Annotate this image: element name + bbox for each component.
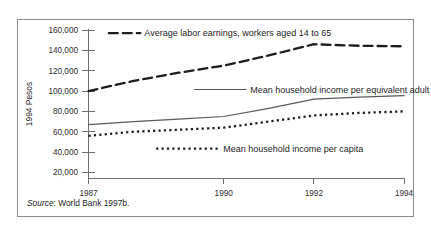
y-tick-label: 100,000 (48, 87, 78, 96)
source-label: Source (27, 198, 54, 208)
y-tick-label: 20,000 (53, 168, 78, 177)
y-axis-title: 1994 Pesos (24, 82, 34, 126)
x-tick-label: 1987 (79, 189, 98, 198)
y-tick-label: 40,000 (53, 148, 78, 157)
y-axis-group: 20,00040,00060,00080,000100,000120,00014… (24, 26, 95, 178)
x-tick-label: 1992 (305, 189, 324, 198)
y-tick-label: 120,000 (48, 67, 78, 76)
series-label-2: Mean household income per capita (223, 144, 363, 154)
y-tick-label: 160,000 (48, 26, 78, 35)
y-tick-label: 60,000 (53, 128, 78, 137)
y-tick-label: 140,000 (48, 46, 78, 55)
x-tick-label: 1994 (395, 189, 414, 198)
x-tick-labels: 1987199019921994 (79, 189, 413, 198)
x-axis-group: 1987199019921994 (79, 178, 413, 198)
figure-container: 20,00040,00060,00080,000100,000120,00014… (0, 0, 431, 230)
x-tick-label: 1990 (215, 189, 234, 198)
y-tick-labels: 20,00040,00060,00080,000100,000120,00014… (48, 26, 78, 177)
series-label-0: Average labor earnings, workers aged 14 … (144, 28, 331, 38)
series-line-1 (89, 96, 405, 125)
y-tick-label: 80,000 (53, 107, 78, 116)
source-note: Source: World Bank 1997b. (27, 198, 129, 208)
series-line-2 (89, 111, 405, 135)
series-label-1: Mean household income per equivalent adu… (250, 85, 430, 95)
source-text: : World Bank 1997b. (54, 198, 130, 208)
line-chart: 20,00040,00060,00080,000100,000120,00014… (0, 0, 431, 230)
